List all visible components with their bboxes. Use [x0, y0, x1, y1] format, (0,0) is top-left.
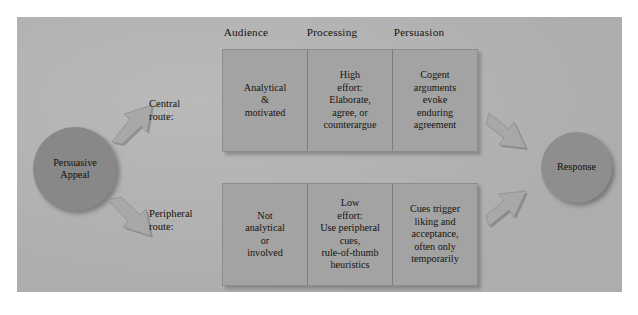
route-row-peripheral: Not analytical or involved Low effort: U… [222, 183, 478, 286]
cell-central-processing: High effort: Elaborate, agree, or counte… [307, 50, 392, 151]
cell-central-persuasion: Cogent arguments evoke enduring agreemen… [392, 50, 477, 151]
column-header-persuasion: Persuasion [377, 26, 461, 38]
node-persuasive-appeal-label: Persuasive Appeal [53, 157, 97, 182]
cell-peripheral-processing: Low effort: Use peripheral cues, rule-of… [307, 184, 392, 285]
cell-peripheral-audience-text: Not analytical or involved [245, 210, 285, 260]
node-response-label: Response [557, 161, 596, 173]
node-response: Response [541, 132, 612, 203]
cell-central-processing-text: High effort: Elaborate, agree, or counte… [324, 69, 377, 131]
column-header-audience: Audience [207, 26, 285, 38]
route-row-central: Analytical & motivated High effort: Elab… [222, 49, 478, 152]
cell-central-audience-text: Analytical & motivated [244, 82, 286, 119]
cell-peripheral-processing-text: Low effort: Use peripheral cues, rule-of… [320, 197, 380, 271]
route-label-central: Central route: [149, 98, 180, 123]
cell-central-audience: Analytical & motivated [223, 50, 307, 151]
column-header-processing: Processing [290, 26, 374, 38]
arrow-peripheral-to-response [486, 186, 544, 232]
cell-peripheral-audience: Not analytical or involved [223, 184, 307, 285]
cell-peripheral-persuasion: Cues trigger liking and acceptance, ofte… [392, 184, 477, 285]
arrow-central-to-response [486, 107, 544, 153]
route-label-peripheral: Peripheral route: [149, 208, 193, 233]
cell-peripheral-persuasion-text: Cues trigger liking and acceptance, ofte… [410, 203, 460, 265]
figure-root: Audience Processing Persuasion Persuasiv… [0, 0, 638, 315]
cell-central-persuasion-text: Cogent arguments evoke enduring agreemen… [414, 69, 456, 131]
